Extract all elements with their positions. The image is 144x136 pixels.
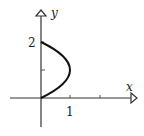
y-axis-label: y: [50, 6, 58, 20]
y-tick-label-2: 2: [28, 36, 36, 50]
x-axis-label: x: [126, 80, 133, 94]
x-tick-label-1: 1: [66, 105, 74, 119]
graph: y x 1 2: [0, 0, 144, 136]
y-axis-arrow-icon: [36, 10, 46, 16]
parabola-curve: [41, 42, 70, 98]
x-axis-arrow-icon: [131, 93, 137, 103]
